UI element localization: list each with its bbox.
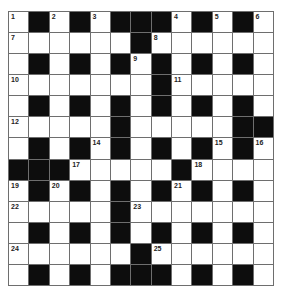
answer-cell[interactable]: 9	[131, 54, 150, 74]
answer-cell[interactable]: 20	[50, 181, 69, 201]
answer-cell[interactable]	[254, 202, 273, 222]
answer-cell[interactable]	[254, 54, 273, 74]
answer-cell[interactable]	[131, 96, 150, 116]
answer-cell[interactable]: 22	[9, 202, 28, 222]
answer-cell[interactable]	[111, 160, 130, 180]
answer-cell[interactable]	[233, 33, 252, 53]
answer-cell[interactable]	[233, 75, 252, 95]
answer-cell[interactable]	[152, 160, 171, 180]
answer-cell[interactable]	[91, 244, 110, 264]
answer-cell[interactable]: 14	[91, 138, 110, 158]
answer-cell[interactable]: 24	[9, 244, 28, 264]
answer-cell[interactable]	[91, 96, 110, 116]
answer-cell[interactable]	[50, 75, 69, 95]
answer-cell[interactable]	[192, 202, 211, 222]
answer-cell[interactable]	[192, 244, 211, 264]
answer-cell[interactable]	[29, 244, 48, 264]
answer-cell[interactable]	[50, 244, 69, 264]
answer-cell[interactable]	[213, 96, 232, 116]
answer-cell[interactable]: 25	[152, 244, 171, 264]
answer-cell[interactable]	[9, 54, 28, 74]
answer-cell[interactable]: 7	[9, 33, 28, 53]
answer-cell[interactable]: 1	[9, 12, 28, 32]
answer-cell[interactable]	[254, 96, 273, 116]
answer-cell[interactable]	[213, 117, 232, 137]
answer-cell[interactable]	[111, 244, 130, 264]
answer-cell[interactable]	[50, 117, 69, 137]
answer-cell[interactable]	[131, 160, 150, 180]
answer-cell[interactable]	[172, 138, 191, 158]
answer-cell[interactable]	[50, 202, 69, 222]
answer-cell[interactable]: 23	[131, 202, 150, 222]
answer-cell[interactable]	[172, 202, 191, 222]
answer-cell[interactable]	[172, 244, 191, 264]
answer-cell[interactable]: 4	[172, 12, 191, 32]
answer-cell[interactable]: 19	[9, 181, 28, 201]
answer-cell[interactable]	[50, 54, 69, 74]
answer-cell[interactable]	[91, 33, 110, 53]
answer-cell[interactable]	[213, 244, 232, 264]
answer-cell[interactable]: 2	[50, 12, 69, 32]
answer-cell[interactable]: 15	[213, 138, 232, 158]
answer-cell[interactable]	[213, 33, 232, 53]
answer-cell[interactable]	[9, 96, 28, 116]
answer-cell[interactable]: 18	[192, 160, 211, 180]
answer-cell[interactable]	[29, 33, 48, 53]
answer-cell[interactable]: 17	[70, 160, 89, 180]
answer-cell[interactable]	[213, 75, 232, 95]
answer-cell[interactable]	[70, 202, 89, 222]
answer-cell[interactable]	[29, 202, 48, 222]
answer-cell[interactable]	[131, 181, 150, 201]
answer-cell[interactable]	[254, 75, 273, 95]
answer-cell[interactable]	[172, 54, 191, 74]
answer-cell[interactable]	[213, 265, 232, 285]
answer-cell[interactable]	[91, 202, 110, 222]
answer-cell[interactable]	[152, 202, 171, 222]
answer-cell[interactable]	[213, 181, 232, 201]
answer-cell[interactable]	[152, 117, 171, 137]
answer-cell[interactable]	[172, 33, 191, 53]
answer-cell[interactable]	[50, 33, 69, 53]
answer-cell[interactable]	[50, 138, 69, 158]
answer-cell[interactable]	[254, 244, 273, 264]
answer-cell[interactable]	[91, 75, 110, 95]
answer-cell[interactable]	[29, 117, 48, 137]
answer-cell[interactable]	[91, 117, 110, 137]
answer-cell[interactable]	[192, 33, 211, 53]
answer-cell[interactable]	[131, 138, 150, 158]
answer-cell[interactable]	[9, 265, 28, 285]
answer-cell[interactable]	[70, 244, 89, 264]
answer-cell[interactable]	[91, 160, 110, 180]
answer-cell[interactable]: 11	[172, 75, 191, 95]
answer-cell[interactable]	[91, 223, 110, 243]
answer-cell[interactable]: 12	[9, 117, 28, 137]
answer-cell[interactable]	[172, 96, 191, 116]
answer-cell[interactable]	[254, 265, 273, 285]
answer-cell[interactable]	[213, 160, 232, 180]
answer-cell[interactable]	[192, 117, 211, 137]
answer-cell[interactable]	[192, 75, 211, 95]
answer-cell[interactable]	[172, 265, 191, 285]
answer-cell[interactable]	[70, 75, 89, 95]
answer-cell[interactable]	[29, 75, 48, 95]
answer-cell[interactable]	[254, 33, 273, 53]
answer-cell[interactable]	[70, 117, 89, 137]
answer-cell[interactable]: 6	[254, 12, 273, 32]
answer-cell[interactable]: 8	[152, 33, 171, 53]
answer-cell[interactable]	[213, 202, 232, 222]
answer-cell[interactable]	[131, 75, 150, 95]
answer-cell[interactable]: 5	[213, 12, 232, 32]
answer-cell[interactable]	[172, 223, 191, 243]
answer-cell[interactable]	[9, 138, 28, 158]
answer-cell[interactable]: 16	[254, 138, 273, 158]
answer-cell[interactable]	[213, 223, 232, 243]
answer-cell[interactable]: 3	[91, 12, 110, 32]
answer-cell[interactable]	[9, 223, 28, 243]
answer-cell[interactable]	[131, 117, 150, 137]
answer-cell[interactable]: 10	[9, 75, 28, 95]
answer-cell[interactable]	[50, 223, 69, 243]
answer-cell[interactable]	[111, 33, 130, 53]
answer-cell[interactable]	[50, 96, 69, 116]
answer-cell[interactable]	[50, 265, 69, 285]
answer-cell[interactable]	[233, 160, 252, 180]
